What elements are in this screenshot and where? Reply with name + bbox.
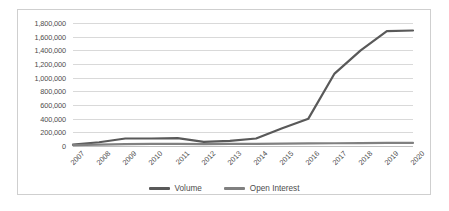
x-axis-tick-label: 2014 [242,149,270,177]
x-axis-tick-label: 2009 [111,149,139,177]
x-axis-tick-label: 2016 [294,149,322,177]
y-axis-tick-label: 1,600,000 [34,32,66,41]
legend-label: Volume [175,184,202,193]
y-axis-tick-label: 800,000 [40,87,66,96]
y-axis-tick-label: 400,000 [40,114,66,123]
x-axis-tick-label: 2015 [268,149,296,177]
legend-label: Open Interest [250,184,300,193]
chart-container: 1,800,0001,600,0001,400,0001,200,0001,00… [17,9,431,195]
gridline [73,146,413,147]
plot-area [73,23,413,146]
y-axis-labels: 1,800,0001,600,0001,400,0001,200,0001,00… [18,23,70,146]
legend-swatch-icon [149,187,170,189]
y-axis-tick-label: 1,800,000 [34,19,66,28]
series-line-volume [73,31,413,145]
y-axis-tick-label: 600,000 [40,101,66,110]
x-axis-tick-label: 2011 [163,149,191,177]
y-axis-tick-label: 1,200,000 [34,60,66,69]
series-lines [73,23,413,146]
legend-swatch-icon [224,187,245,189]
chart-legend: VolumeOpen Interest [18,184,430,193]
x-axis-tick-label: 2008 [85,149,113,177]
y-axis-tick-label: 1,000,000 [34,73,66,82]
x-axis-tick-label: 2010 [137,149,165,177]
legend-item-open-interest[interactable]: Open Interest [224,184,300,193]
x-axis-tick-label: 2020 [399,149,427,177]
y-axis-tick-label: 1,400,000 [34,46,66,55]
x-axis-tick-label: 2018 [346,149,374,177]
series-line-open-interest [73,143,413,145]
x-axis-tick-label: 2013 [216,149,244,177]
x-axis-tick-label: 2019 [373,149,401,177]
y-axis-tick-label: 200,000 [40,128,66,137]
x-axis-tick-label: 2012 [190,149,218,177]
x-axis-tick-label: 2007 [59,149,87,177]
legend-item-volume[interactable]: Volume [149,184,202,193]
x-axis-labels: 2007200820092010201120122013201420152016… [73,149,413,183]
y-axis-tick-label: 0 [62,142,66,151]
x-axis-tick-label: 2017 [320,149,348,177]
